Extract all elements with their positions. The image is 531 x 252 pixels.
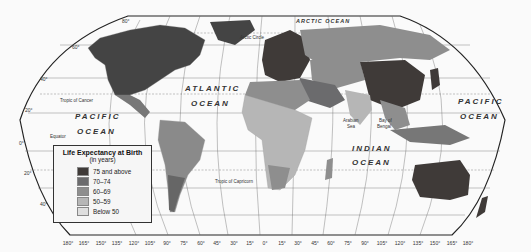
legend-label: 60–69 xyxy=(93,188,111,195)
lon-label: 180° xyxy=(63,240,73,246)
lon-label: 120° xyxy=(129,240,139,246)
lat-20s: 20° xyxy=(24,170,32,176)
tropic-capricorn-label: Tropic of Capricorn xyxy=(215,179,253,184)
lon-label: 60° xyxy=(197,240,205,246)
legend-subtitle: (in years) xyxy=(58,156,147,163)
lat-0: 0° xyxy=(19,140,24,146)
arctic-circle-label: Arctic Circle xyxy=(240,35,264,40)
lon-label: 135° xyxy=(413,240,423,246)
lon-label: 15° xyxy=(278,240,286,246)
lon-label: 135° xyxy=(112,240,122,246)
lat-80n: 80° xyxy=(122,18,130,24)
lat-40n: 40° xyxy=(40,76,48,82)
lat-60n: 60° xyxy=(72,44,80,50)
arctic-ocean-label: ARCTIC OCEAN xyxy=(296,18,350,24)
arabian-sea-label-2: Sea xyxy=(347,124,355,129)
legend-swatch xyxy=(77,207,89,216)
lon-label: 150° xyxy=(430,240,440,246)
legend-swatch xyxy=(77,187,89,196)
lon-label: 105° xyxy=(377,240,387,246)
tropic-cancer-label: Tropic of Cancer xyxy=(60,98,93,103)
lon-label: 75° xyxy=(180,240,188,246)
lon-label: 15° xyxy=(246,240,254,246)
legend-title: Life Expectancy at Birth xyxy=(58,149,147,156)
lon-label: 120° xyxy=(395,240,405,246)
australia xyxy=(412,160,470,200)
lon-label: 180° xyxy=(463,240,473,246)
legend-label: 50–59 xyxy=(93,198,111,205)
lon-label: 45° xyxy=(311,240,319,246)
legend-swatch xyxy=(77,167,89,176)
indian-ocean-label-1: INDIAN xyxy=(352,144,392,153)
pacific-ocean-e-label-1: PACIFIC xyxy=(458,97,503,106)
pacific-ocean-w-label-2: OCEAN xyxy=(77,127,116,136)
legend-label: 70–74 xyxy=(93,178,111,185)
lat-20n: 20° xyxy=(25,107,33,113)
lon-label: 165° xyxy=(447,240,457,246)
equator-label: Equator xyxy=(50,134,66,139)
pacific-ocean-e-label-2: OCEAN xyxy=(460,112,499,121)
lon-label: 165° xyxy=(79,240,89,246)
lon-label: 0° xyxy=(263,240,268,246)
map-legend: Life Expectancy at Birth (in years) 75 a… xyxy=(53,145,152,223)
lon-label: 105° xyxy=(145,240,155,246)
legend-label: Below 50 xyxy=(93,208,119,215)
lon-label: 30° xyxy=(230,240,238,246)
bay-of-bengal-label-1: Bay of xyxy=(379,118,392,123)
atlantic-ocean-label-2: OCEAN xyxy=(191,99,230,108)
atlantic-ocean-label-1: ATLANTIC xyxy=(185,84,240,93)
lon-label: 30° xyxy=(294,240,302,246)
legend-item: 75 and above xyxy=(77,166,147,176)
lon-label: 45° xyxy=(213,240,221,246)
legend-item: 70–74 xyxy=(77,176,147,186)
legend-item: 50–59 xyxy=(77,196,147,206)
bay-of-bengal-label-2: Bengal xyxy=(377,124,391,129)
arabian-sea-label-1: Arabian xyxy=(343,118,359,123)
lon-label: 90° xyxy=(361,240,369,246)
legend-swatch xyxy=(77,197,89,206)
legend-swatch xyxy=(77,177,89,186)
lon-label: 60° xyxy=(327,240,335,246)
legend-label: 75 and above xyxy=(93,168,131,175)
lon-label: 150° xyxy=(96,240,106,246)
lon-label: 90° xyxy=(163,240,171,246)
legend-item: Below 50 xyxy=(77,206,147,216)
lon-label: 75° xyxy=(344,240,352,246)
indian-ocean-label-2: OCEAN xyxy=(352,158,391,167)
legend-item: 60–69 xyxy=(77,186,147,196)
lat-40s: 40° xyxy=(40,201,48,207)
pacific-ocean-w-label-1: PACIFIC xyxy=(75,112,120,121)
